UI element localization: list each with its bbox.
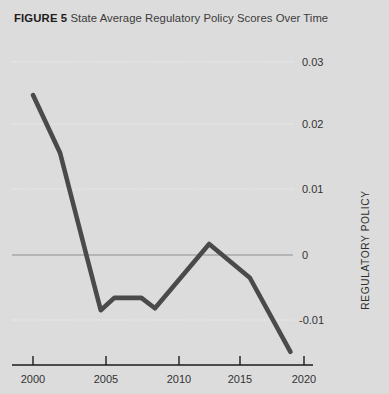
x-tick-label: 2010 [167, 373, 191, 385]
y-tick-label: 0.03 [302, 56, 323, 68]
x-axis-tick-labels: 2000 2005 2010 2015 2020 [21, 373, 316, 385]
x-axis-tick-marks [33, 356, 304, 365]
figure-container: FIGURE 5 State Average Regulatory Policy… [0, 0, 389, 394]
y-tick-label: -0.01 [299, 314, 324, 326]
x-tick-label: 2005 [94, 373, 118, 385]
regulatory-policy-line-series [33, 95, 290, 352]
y-tick-label: 0.01 [302, 183, 323, 195]
y-axis-tick-labels: 0.03 0.02 0.01 0 -0.01 [299, 56, 324, 326]
y-axis-title: REGULATORY POLICY [360, 190, 371, 309]
x-tick-label: 2015 [228, 373, 252, 385]
x-tick-label: 2000 [21, 373, 45, 385]
y-tick-label: 0.02 [302, 118, 323, 130]
y-tick-label: 0 [302, 249, 308, 261]
x-tick-label: 2020 [292, 373, 316, 385]
chart-plot-area: 0.03 0.02 0.01 0 -0.01 REGULATORY POLICY… [0, 0, 389, 394]
